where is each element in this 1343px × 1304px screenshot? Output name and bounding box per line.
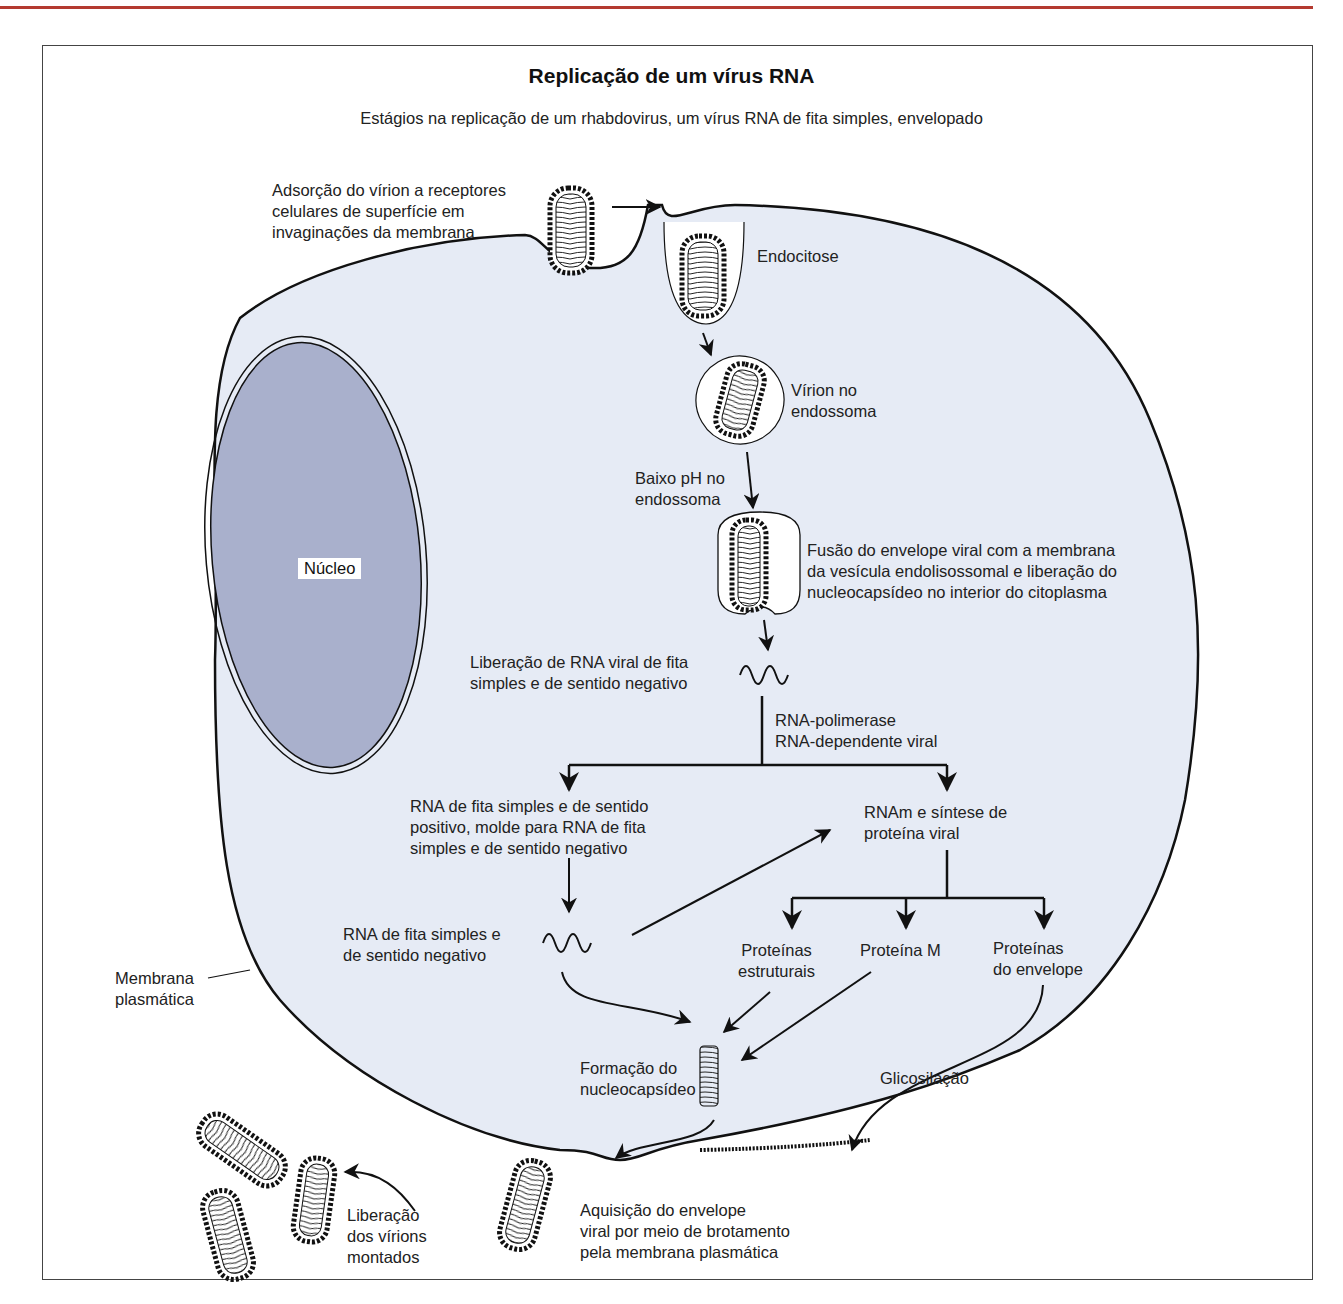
label-envelope-proteins: Proteínas do envelope (993, 938, 1083, 980)
virion-fusion (718, 512, 800, 614)
label-release: Liberação dos vírions montados (347, 1205, 427, 1268)
virion-budding (496, 1157, 554, 1253)
released-virion-3 (291, 1156, 336, 1244)
label-nucleus: Núcleo (298, 558, 361, 579)
label-glycosylation: Glicosilação (880, 1068, 969, 1089)
label-polymerase: RNA-polimerase RNA-dependente viral (775, 710, 937, 752)
label-negative-rna: RNA de fita simples e de sentido negativ… (343, 924, 501, 966)
label-nucleocapsid-formation: Formação do nucleocapsídeo (580, 1058, 696, 1100)
label-endocytosis: Endocitose (757, 246, 839, 267)
label-plasma-membrane: Membrana plasmática (115, 968, 194, 1010)
figure-subtitle: Estágios na replicação de um rhabdovirus… (0, 109, 1343, 128)
label-low-ph: Baixo pH no endossoma (635, 468, 725, 510)
label-fusion: Fusão do envelope viral com a membrana d… (807, 540, 1117, 603)
label-adsorption: Adsorção do vírion a receptores celulare… (272, 180, 506, 243)
virion-adsorbing (550, 188, 592, 273)
label-rna-release: Liberação de RNA viral de fita simples e… (470, 652, 688, 694)
released-virion-1 (192, 1108, 291, 1193)
nucleocapsid (700, 1046, 718, 1106)
label-budding: Aquisição do envelope viral por meio de … (580, 1200, 790, 1263)
label-virion-endosome: Vírion no endossoma (791, 380, 876, 422)
label-protein-m: Proteína M (860, 940, 941, 961)
label-mrna-synthesis: RNAm e síntese de proteína viral (864, 802, 1007, 844)
label-positive-rna: RNA de fita simples e de sentido positiv… (410, 796, 648, 859)
label-structural-proteins: Proteínas estruturais (738, 940, 815, 982)
released-virion-2 (199, 1187, 257, 1283)
figure-title: Replicação de um vírus RNA (0, 64, 1343, 88)
